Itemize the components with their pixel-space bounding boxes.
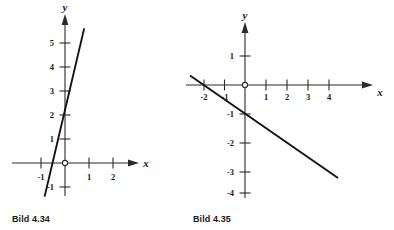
- y-axis-label: y: [61, 1, 68, 13]
- origin-marker-icon: [242, 82, 247, 87]
- plot-area-bild-4-34: -1 1 2 -1 1 2 3 4 5 x y: [0, 0, 197, 205]
- x-tick-label-4: 4: [327, 92, 332, 102]
- figure-bild-4-34: -1 1 2 -1 1 2 3 4 5 x y Bild 4.34: [0, 0, 197, 230]
- chart-svg-bild-4-34: -1 1 2 -1 1 2 3 4 5 x y: [0, 0, 197, 205]
- y-tick-label-5: 5: [50, 38, 54, 48]
- x-tick-label-3: 3: [306, 92, 310, 102]
- y-axis-label: y: [241, 9, 248, 21]
- origin-marker-icon: [62, 160, 67, 165]
- y-tick-label-neg1: -1: [47, 182, 54, 192]
- y-axis-arrow-icon: [242, 22, 249, 33]
- data-line-4-35: [190, 76, 338, 179]
- x-tick-label-1: 1: [264, 92, 268, 102]
- figure-caption-bild-4-35: Bild 4.35: [193, 214, 231, 224]
- x-tick-label-neg1: -1: [37, 172, 44, 182]
- x-axis-label: x: [376, 86, 383, 98]
- y-tick-label-4: 4: [50, 62, 55, 72]
- x-axis-arrow-icon: [362, 82, 373, 89]
- y-tick-label-1: 1: [50, 134, 54, 144]
- y-tick-label-1: 1: [230, 51, 234, 61]
- x-tick-label-1: 1: [87, 172, 91, 182]
- plot-area-bild-4-35: -2 -1 1 2 3 4 1 -1 -2 -3 -4 x y: [180, 0, 394, 205]
- y-tick-label-neg3: -3: [227, 167, 234, 177]
- x-tick-label-2: 2: [285, 92, 289, 102]
- x-tick-label-neg1: -1: [221, 92, 228, 102]
- x-tick-label-2: 2: [111, 172, 115, 182]
- x-tick-label-neg2: -2: [200, 92, 207, 102]
- chart-svg-bild-4-35: -2 -1 1 2 3 4 1 -1 -2 -3 -4 x y: [180, 0, 394, 205]
- figure-bild-4-35: -2 -1 1 2 3 4 1 -1 -2 -3 -4 x y Bild 4.3…: [180, 0, 394, 230]
- y-tick-label-neg4: -4: [227, 188, 235, 198]
- y-tick-label-neg2: -2: [227, 138, 234, 148]
- y-axis-arrow-icon: [62, 14, 69, 25]
- figure-caption-bild-4-34: Bild 4.34: [12, 214, 50, 224]
- y-tick-label-2: 2: [50, 110, 54, 120]
- x-axis-label: x: [142, 157, 149, 169]
- y-tick-label-neg1: -1: [227, 109, 234, 119]
- y-tick-label-3: 3: [50, 86, 54, 96]
- x-axis-arrow-icon: [128, 160, 139, 167]
